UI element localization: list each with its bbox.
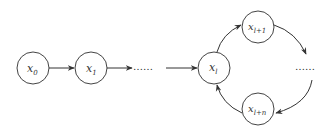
node-xl-plus-1: xl+1 — [242, 11, 274, 43]
node-xl-plus-n: xl+n — [242, 93, 274, 125]
edge-xl-xl1 — [217, 25, 241, 52]
edge-ellipsis-xln — [276, 80, 312, 113]
node-xl: xl — [198, 52, 230, 84]
edge-xln-xl — [217, 85, 242, 113]
sequence-cycle-diagram: x0 x1 xl xl+1 xl+n …… …… — [0, 0, 334, 135]
node-x0: x0 — [17, 52, 49, 84]
edge-xl1-ellipsis — [274, 25, 306, 54]
node-x1: x1 — [75, 52, 107, 84]
ellipsis-chain: …… — [133, 61, 153, 72]
ellipsis-cycle: …… — [295, 61, 315, 72]
